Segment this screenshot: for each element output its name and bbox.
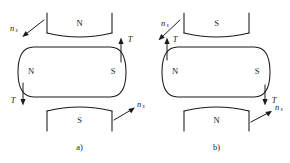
speed-arrow-head [22,31,29,37]
panel-a-torque-arrow-left-down: T [11,83,26,106]
panel-a-stator-bottom: S [47,107,112,131]
speed-arrow-shaft [26,20,44,34]
torque-label-right: T [128,34,134,44]
speed-label-bottom-right-subscript: s [143,103,145,109]
speed-label-bottom-right: n [137,99,141,109]
torque-label-left: T [11,95,17,105]
panel-b-speed-arrow-bottom-right: n s [251,102,283,122]
torque-arrow-head [262,99,267,106]
stator-top-face-arc [47,33,112,37]
panel-b-stator-bottom: N [184,107,249,131]
panel-a-torque-arrow-right-up: T [118,34,133,62]
panel-a-speed-arrow-bottom-right: n s [114,99,145,120]
rotor-pole-left-label: N [28,66,34,76]
stator-bottom-face-arc [47,107,112,111]
torque-arrow-head [20,99,25,106]
stator-bottom-face-arc [184,107,249,111]
speed-label-top-left-subscript: s [167,22,169,28]
speed-label-top-left: n [10,23,14,33]
speed-label-top-left-subscript: s [16,27,18,33]
panel-b-caption: b) [213,142,220,152]
rotor-pole-right-label: S [255,66,260,76]
figure-container: N S N S T [0,0,290,163]
speed-arrow-shaft [114,110,131,120]
speed-label-bottom-right: n [275,102,279,112]
panel-a-stator-top: N [47,13,112,37]
machine-torque-diagram: N S N S T [0,0,290,163]
stator-bottom-pole-label: S [77,115,82,125]
panel-a-speed-arrow-top-left: n s [10,20,44,37]
stator-top-face-arc [184,33,249,37]
stator-top-pole-label: N [76,18,82,28]
rotor-pole-left-label: N [172,66,178,76]
stator-bottom-pole-label: N [213,115,219,125]
stator-top-pole-label: S [214,18,219,28]
torque-arrow-head [164,38,169,45]
panel-b-stator-top: S [184,13,249,37]
torque-arrow-head [118,38,123,45]
panel-b: S N N S T [159,13,283,152]
speed-arrow-shaft [251,113,268,122]
rotor-pole-right-label: S [111,66,116,76]
panel-b-rotor: N S [162,47,270,97]
panel-a-caption: a) [76,142,83,152]
speed-label-top-left: n [161,18,165,28]
panel-a-rotor: N S [18,47,126,97]
speed-label-bottom-right-subscript: s [281,106,283,112]
torque-label-left: T [173,34,179,44]
panel-a: N S N S T [10,13,145,152]
